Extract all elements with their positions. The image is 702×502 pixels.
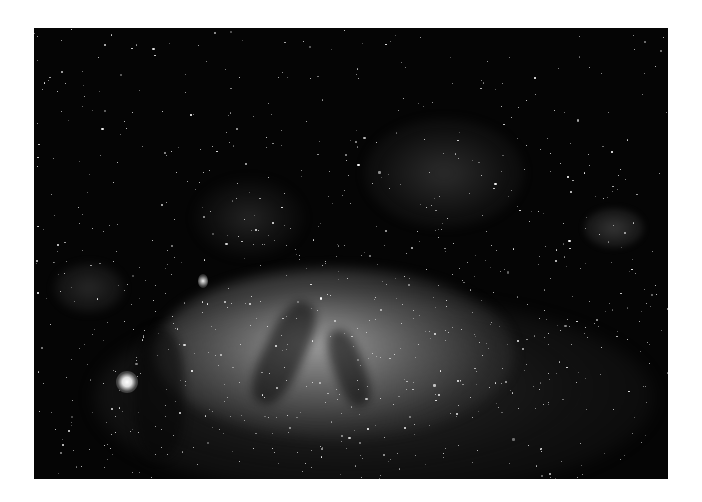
- milky-way-photo: [34, 28, 668, 479]
- bright-star: [116, 371, 138, 393]
- star-field: [34, 28, 668, 479]
- star-cluster: [198, 274, 208, 288]
